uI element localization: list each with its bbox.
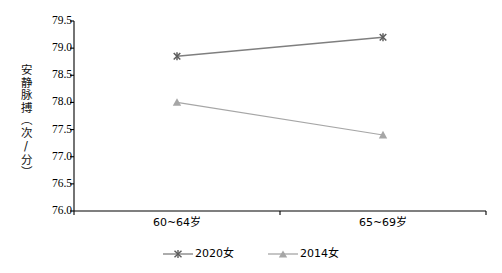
- x-axis-tick-labels: 60~64岁65~69岁: [0, 0, 502, 273]
- legend-swatch-2014-triangle-icon: [268, 248, 298, 260]
- legend-label-2014: 2014女: [300, 248, 339, 260]
- legend-label-2020: 2020女: [195, 248, 234, 260]
- legend-swatch-2020-asterisk-icon: [163, 248, 193, 260]
- chart-legend: 2020女 2014女: [0, 243, 502, 265]
- x-axis-tick-label: 65~69岁: [359, 217, 407, 229]
- line-chart: 安静脉搏（次/分） 76.076.577.077.578.078.579.079…: [0, 0, 502, 273]
- x-axis-tick-label: 60~64岁: [153, 217, 201, 229]
- legend-item-2014[interactable]: 2014女: [268, 248, 339, 260]
- legend-item-2020[interactable]: 2020女: [163, 248, 234, 260]
